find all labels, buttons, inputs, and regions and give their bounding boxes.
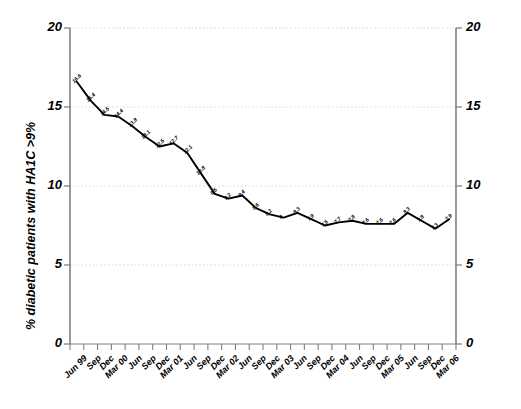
y-axis-left-tick-label: 15 [24,98,62,113]
y-axis-left-tick-label: 20 [24,19,62,34]
data-series-line [77,82,449,229]
y-axis-left-tick-label: 0 [24,335,62,350]
line-chart: % diabetic patients with HA1C >9% 051015… [0,0,521,409]
y-axis-right-tick-label: 5 [466,256,504,271]
y-axis-right-tick-label: 20 [466,19,504,34]
plot-canvas [0,0,521,409]
y-axis-right-tick-label: 10 [466,177,504,192]
y-axis-right-tick-label: 0 [466,335,504,350]
y-axis-right-tick-label: 15 [466,98,504,113]
y-axis-left-tick-label: 10 [24,177,62,192]
y-axis-left-tick-label: 5 [24,256,62,271]
